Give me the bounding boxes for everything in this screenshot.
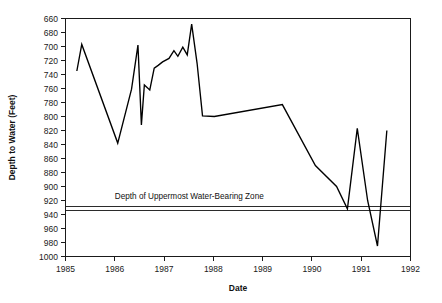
- y-tick-label: 820: [44, 126, 58, 136]
- y-tick-label: 760: [44, 84, 58, 94]
- y-tick-label: 700: [44, 42, 58, 52]
- y-tick-label: 920: [44, 196, 58, 206]
- y-tick-label: 860: [44, 154, 58, 164]
- y-tick-label: 980: [44, 238, 58, 248]
- x-tick-label: 1992: [401, 264, 420, 274]
- y-tick-label: 680: [44, 28, 58, 38]
- annotation-group: Depth of Uppermost Water-Bearing Zone: [115, 192, 264, 201]
- x-tick-label: 1985: [56, 264, 75, 274]
- y-tick-label: 740: [44, 70, 58, 80]
- x-tick-label: 1988: [204, 264, 223, 274]
- annotation-label-uppermost-zone: Depth of Uppermost Water-Bearing Zone: [115, 192, 264, 201]
- y-tick-label: 900: [44, 182, 58, 192]
- y-tick-label: 1000: [39, 252, 58, 262]
- y-axis-title: Depth to Water (Feet): [7, 95, 17, 181]
- y-tick-label: 720: [44, 56, 58, 66]
- y-tick-label: 840: [44, 140, 58, 150]
- chart-background: [0, 0, 442, 303]
- x-tick-label: 1989: [253, 264, 272, 274]
- y-tick-label: 660: [44, 14, 58, 24]
- y-tick-label: 800: [44, 112, 58, 122]
- depth-to-water-chart: 6606807007207407607808008208408608809009…: [0, 0, 442, 303]
- x-tick-label: 1987: [155, 264, 174, 274]
- y-tick-label: 880: [44, 168, 58, 178]
- x-tick-label: 1991: [352, 264, 371, 274]
- chart-canvas: 6606807007207407607808008208408608809009…: [0, 0, 442, 303]
- x-tick-label: 1990: [302, 264, 321, 274]
- y-tick-label: 780: [44, 98, 58, 108]
- x-tick-label: 1986: [105, 264, 124, 274]
- y-tick-label: 960: [44, 224, 58, 234]
- x-axis-title: Date: [229, 283, 248, 293]
- y-tick-label: 940: [44, 210, 58, 220]
